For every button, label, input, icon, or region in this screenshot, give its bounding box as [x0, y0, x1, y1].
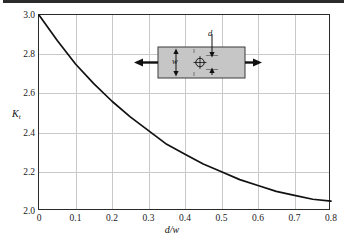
- y-tick-label: 2.0: [23, 206, 35, 216]
- y-axis-label: Kt: [12, 108, 21, 121]
- y-axis-label-subscript: t: [19, 113, 21, 121]
- x-tick-label: 0.5: [216, 213, 228, 223]
- inset-width-label: w: [172, 57, 178, 66]
- y-tick-label: 3.0: [23, 10, 35, 20]
- x-axis-label: d/w: [0, 224, 344, 235]
- inset-diagram: w d: [132, 28, 262, 90]
- x-tick-label: 0.3: [143, 213, 155, 223]
- x-tick-label: 0.1: [70, 213, 82, 223]
- x-tick-label: 0.7: [289, 213, 301, 223]
- x-tick-label: 0: [37, 213, 42, 223]
- tension-arrow-left-icon: [134, 58, 158, 66]
- x-tick-label: 0.4: [179, 213, 191, 223]
- figure-stress-concentration-factor: Kt d/w 3.0 2.8 2.6 2.4 2.2 2.0 0 0.1 0.2…: [0, 0, 344, 247]
- tension-arrow-right-icon: [245, 58, 262, 66]
- x-tick-label: 0.6: [252, 213, 264, 223]
- y-tick-label: 2.4: [23, 128, 35, 138]
- inset-svg: [132, 28, 262, 90]
- x-tick-label: 0.2: [106, 213, 118, 223]
- y-tick-label: 2.2: [23, 167, 35, 177]
- inset-diameter-label: d: [208, 29, 212, 38]
- scan-edge-top: [0, 0, 344, 3]
- x-tick-label: 0.8: [325, 213, 337, 223]
- scan-edge-left: [0, 0, 3, 247]
- y-tick-label: 2.6: [23, 88, 35, 98]
- y-axis-label-main: K: [12, 108, 19, 119]
- y-tick-label: 2.8: [23, 49, 35, 59]
